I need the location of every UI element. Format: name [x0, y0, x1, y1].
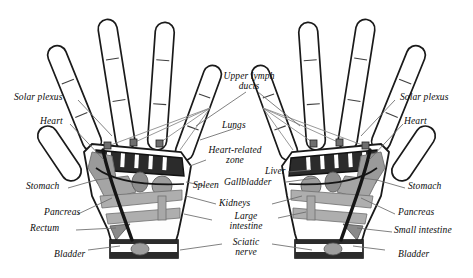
label-right-small-intestine: Small intestine	[394, 226, 452, 236]
right-middle-finger	[337, 18, 376, 151]
label-right-bladder: Bladder	[398, 250, 429, 260]
label-left-pancreas: Pancreas	[44, 208, 80, 218]
leader-large-intestine-left	[184, 214, 212, 220]
left-hand	[34, 18, 224, 258]
label-upper-lymph-ducts-line2: ducts	[209, 82, 289, 92]
label-upper-lymph-ducts: Upper lymph ducts	[209, 72, 289, 91]
label-liver: Liver	[265, 167, 286, 177]
left-ring-finger	[147, 22, 175, 151]
label-left-heart: Heart	[40, 117, 63, 127]
label-right-pancreas: Pancreas	[398, 208, 434, 218]
label-right-heart: Heart	[404, 117, 427, 127]
label-left-solar-plexus: Solar plexus	[14, 93, 62, 103]
label-left-stomach: Stomach	[26, 182, 59, 192]
reflexology-hand-diagram: Solar plexus Heart Stomach Pancreas Rect…	[0, 0, 473, 278]
left-middle-finger	[97, 18, 136, 151]
label-left-bladder: Bladder	[54, 250, 85, 260]
label-large-intestine-line2: intestine	[214, 222, 278, 232]
label-lungs: Lungs	[222, 121, 246, 131]
left-intestine-connector	[158, 196, 166, 220]
right-intestine-connector	[307, 196, 315, 220]
label-spleen: Spleen	[193, 181, 219, 191]
right-ring-finger	[298, 22, 326, 151]
label-sciatic-nerve: Sciatic nerve	[217, 238, 275, 257]
left-wrist-bladder-zone	[110, 240, 178, 258]
label-gallbladder: Gallbladder	[224, 178, 272, 188]
leader-kidneys-left	[186, 196, 216, 204]
leader-sciatic-left	[180, 244, 222, 250]
label-left-rectum: Rectum	[30, 224, 59, 234]
label-large-intestine: Large intestine	[214, 212, 278, 231]
label-right-solar-plexus: Solar plexus	[400, 93, 448, 103]
label-kidneys: Kidneys	[219, 199, 250, 209]
label-right-stomach: Stomach	[408, 182, 441, 192]
label-sciatic-nerve-line2: nerve	[217, 248, 275, 258]
label-heart-related-zone: Heart-related zone	[198, 146, 272, 165]
label-heart-related-zone-line2: zone	[198, 156, 272, 166]
